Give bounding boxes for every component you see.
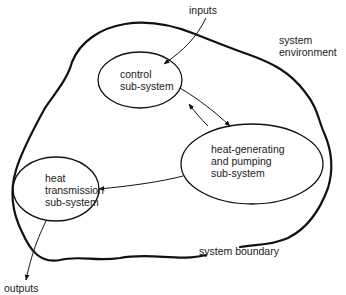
inputs-label: inputs (189, 4, 217, 16)
control-node-label-line2: sub-system (120, 80, 174, 92)
heat-generating-node-label-line2: and pumping (211, 155, 272, 167)
environment-label-line1: system (279, 34, 312, 46)
heat-generating-to-heat-transmission-arrow (99, 176, 183, 189)
system-boundary-label: system boundary (199, 245, 279, 257)
environment-label-line2: environment (279, 46, 337, 58)
inputs-arrow (164, 18, 206, 64)
heat-transmission-node-label-line3: sub-system (45, 196, 99, 208)
outputs-arrow (26, 221, 46, 280)
outputs-label: outputs (4, 282, 38, 294)
heat-transmission-node-label-line1: heat (45, 172, 65, 184)
heat-transmission-node-label-line2: transmission (45, 184, 104, 196)
control-to-heat-generating-arrow (180, 88, 230, 126)
control-node-label-line1: control (120, 68, 152, 80)
heat-generating-node-label-line1: heat-generating (211, 143, 285, 155)
heat-generating-to-control-arrow (189, 104, 208, 126)
heat-generating-node-label-line3: sub-system (211, 167, 265, 179)
